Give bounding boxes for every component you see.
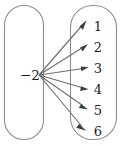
arrow-line-1 (39, 26, 82, 76)
arrow-to-1 (39, 20, 87, 75)
mapping-diagram: −2 1 2 3 4 5 6 (0, 0, 122, 146)
domain-element-label-minus2: −2 (20, 67, 40, 83)
arrow-to-4 (39, 75, 89, 91)
codomain-element-label-1: 1 (94, 19, 102, 34)
arrow-head-3 (81, 67, 89, 72)
codomain-element-label-5: 5 (94, 103, 102, 118)
codomain-element-label-6: 6 (94, 124, 102, 139)
arrow-head-5 (79, 104, 88, 110)
codomain-element-label-2: 2 (94, 40, 102, 55)
codomain-element-label-4: 4 (94, 82, 102, 97)
mapping-diagram-canvas: −2 1 2 3 4 5 6 (0, 0, 122, 146)
arrow-line-2 (39, 47, 83, 75)
arrow-head-2 (80, 44, 88, 52)
arrow-line-4 (39, 75, 83, 88)
arrow-line-3 (39, 69, 83, 76)
arrow-to-2 (39, 44, 88, 75)
codomain-element-label-3: 3 (94, 61, 102, 76)
arrow-head-1 (79, 20, 86, 29)
arrow-head-4 (80, 86, 88, 91)
